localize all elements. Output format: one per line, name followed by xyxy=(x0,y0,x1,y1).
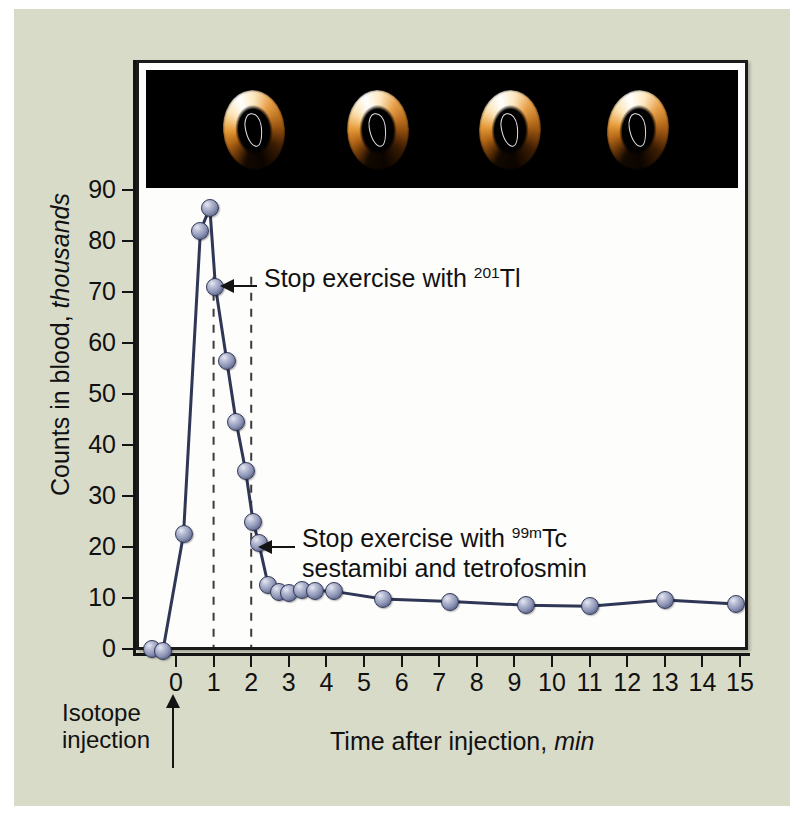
y-axis-title: Counts in blood, thousands xyxy=(46,135,75,555)
x-tick-label-9: 9 xyxy=(494,670,534,695)
isotope-injection-line2: injection xyxy=(62,727,150,754)
x-axis-line xyxy=(133,653,750,656)
page-margin-top xyxy=(0,0,803,9)
x-tick-label-15: 15 xyxy=(720,670,760,695)
x-tick-label-12: 12 xyxy=(607,670,647,695)
x-tick-label-11: 11 xyxy=(570,670,610,695)
spect-image-strip xyxy=(146,70,738,188)
x-tick-label-2: 2 xyxy=(231,670,271,695)
data-point-marker xyxy=(517,596,535,614)
data-point-marker xyxy=(244,513,262,531)
y-tick-label-10: 10 xyxy=(60,585,116,610)
data-point-marker xyxy=(218,352,236,370)
x-tick-2 xyxy=(250,656,252,667)
x-tick-10 xyxy=(551,656,553,667)
y-axis-line xyxy=(133,60,136,653)
x-tick-15 xyxy=(739,656,741,667)
spect-ring-image-4 xyxy=(592,84,684,176)
x-tick-label-5: 5 xyxy=(344,670,384,695)
x-axis-title: Time after injection, min xyxy=(330,727,594,756)
y-tick-10 xyxy=(122,597,133,599)
y-axis-title-italic: thousands xyxy=(46,193,74,308)
x-tick-0 xyxy=(175,656,177,667)
page-margin-bottom xyxy=(0,806,803,816)
x-tick-3 xyxy=(288,656,290,667)
annotation-tc99m-line2: sestamibi and tetrofosmin xyxy=(302,554,587,584)
y-tick-20 xyxy=(122,546,133,548)
annotation-tl201: Stop exercise with 201Tl xyxy=(264,264,521,294)
y-tick-label-0: 0 xyxy=(60,636,116,661)
page-margin-right xyxy=(790,0,803,816)
x-tick-14 xyxy=(701,656,703,667)
spect-ring-image-2 xyxy=(332,84,424,176)
x-tick-7 xyxy=(438,656,440,667)
x-tick-8 xyxy=(476,656,478,667)
x-tick-label-14: 14 xyxy=(682,670,722,695)
y-tick-80 xyxy=(122,240,133,242)
figure-container: 0102030405060708090 01234567891011121314… xyxy=(0,0,803,816)
x-tick-11 xyxy=(589,656,591,667)
x-tick-label-4: 4 xyxy=(306,670,346,695)
data-point-marker xyxy=(581,597,599,615)
spect-ring-image-1 xyxy=(208,84,300,176)
data-point-marker xyxy=(154,642,172,660)
annotation-tc99m: Stop exercise with 99mTc sestamibi and t… xyxy=(302,524,587,583)
annotation-tl201-text: Stop exercise with 201Tl xyxy=(264,264,521,292)
x-tick-1 xyxy=(213,656,215,667)
data-point-marker xyxy=(191,222,209,240)
annotation-tc99m-arrow-icon xyxy=(271,546,295,548)
x-tick-label-1: 1 xyxy=(194,670,234,695)
y-tick-30 xyxy=(122,495,133,497)
data-point-marker xyxy=(325,582,343,600)
x-tick-label-6: 6 xyxy=(382,670,422,695)
x-axis-title-italic: min xyxy=(554,727,594,755)
x-tick-4 xyxy=(325,656,327,667)
x-tick-6 xyxy=(401,656,403,667)
data-point-marker xyxy=(727,595,745,613)
x-tick-label-3: 3 xyxy=(269,670,309,695)
y-tick-0 xyxy=(122,648,133,650)
y-tick-90 xyxy=(122,189,133,191)
x-tick-label-0: 0 xyxy=(156,670,196,695)
x-tick-5 xyxy=(363,656,365,667)
data-point-marker xyxy=(227,413,245,431)
y-tick-70 xyxy=(122,291,133,293)
x-tick-label-8: 8 xyxy=(457,670,497,695)
x-axis-title-main: Time after injection, xyxy=(330,727,547,755)
x-tick-label-10: 10 xyxy=(532,670,572,695)
spect-ring-image-3 xyxy=(464,84,556,176)
data-point-marker xyxy=(237,462,255,480)
annotation-tc99m-line1: Stop exercise with 99mTc xyxy=(302,524,587,554)
y-tick-50 xyxy=(122,393,133,395)
isotope-injection-line1: Isotope xyxy=(62,700,150,727)
data-point-marker xyxy=(201,199,219,217)
data-point-marker xyxy=(306,582,324,600)
isotope-injection-label: Isotope injection xyxy=(62,700,150,754)
data-point-marker xyxy=(374,590,392,608)
data-point-marker xyxy=(441,593,459,611)
y-axis-title-main: Counts in blood, xyxy=(46,315,74,496)
data-point-marker xyxy=(175,525,193,543)
x-tick-13 xyxy=(664,656,666,667)
x-tick-label-13: 13 xyxy=(645,670,685,695)
y-tick-60 xyxy=(122,342,133,344)
page-margin-left xyxy=(0,0,14,816)
x-tick-label-7: 7 xyxy=(419,670,459,695)
y-tick-40 xyxy=(122,444,133,446)
x-tick-12 xyxy=(626,656,628,667)
isotope-injection-arrow-icon xyxy=(172,706,174,768)
data-point-marker xyxy=(656,591,674,609)
x-tick-9 xyxy=(513,656,515,667)
annotation-tl201-arrow-icon xyxy=(233,285,257,287)
